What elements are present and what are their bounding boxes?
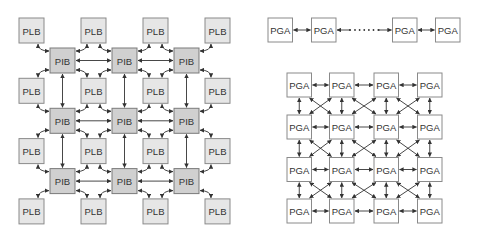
pga-mesh-block: PGA xyxy=(330,115,355,139)
pga-chain: PGAPGAPGAPGA xyxy=(268,18,460,42)
pga-mesh-block-label: PGA xyxy=(289,206,310,217)
pga-mesh-block: PGA xyxy=(418,199,443,223)
pga-mesh-block-label: PGA xyxy=(420,165,441,176)
pga-mesh-block-label: PGA xyxy=(376,122,397,133)
plb-pib-link xyxy=(200,165,211,172)
pga-mesh-block-label: PGA xyxy=(289,80,310,91)
plb-pib-link xyxy=(162,191,173,198)
architecture-diagram: PLBPLBPLBPLBPLBPLBPLBPLBPLBPLBPLBPLBPLBP… xyxy=(0,0,477,237)
plb-pib-link xyxy=(76,44,87,51)
island-architecture: PLBPLBPLBPLBPLBPLBPLBPLBPLBPLBPLBPLBPLBP… xyxy=(19,18,230,224)
pib-block: PIB xyxy=(50,108,75,133)
plb-pib-link xyxy=(138,70,149,77)
plb-pib-link xyxy=(76,130,87,137)
pga-chain-block-label: PGA xyxy=(438,25,459,36)
plb-pib-link xyxy=(162,104,173,111)
plb-pib-link xyxy=(200,104,211,111)
ellipsis-dot xyxy=(377,29,379,31)
plb-pib-link xyxy=(100,191,111,198)
pga-mesh-block: PGA xyxy=(330,73,355,97)
pib-block: PIB xyxy=(112,108,137,133)
pga-mesh-block-label: PGA xyxy=(332,122,353,133)
plb-block-label: PLB xyxy=(23,146,41,157)
plb-block: PLB xyxy=(143,199,168,224)
plb-pib-link xyxy=(138,165,149,172)
pga-mesh-block-label: PGA xyxy=(376,165,397,176)
pga-mesh-block: PGA xyxy=(287,199,312,223)
plb-block-label: PLB xyxy=(147,206,165,217)
plb-pib-link xyxy=(76,70,87,77)
pga-mesh-block: PGA xyxy=(330,199,355,223)
pib-block: PIB xyxy=(50,48,75,73)
pga-mesh-block: PGA xyxy=(330,158,355,182)
plb-block: PLB xyxy=(143,139,168,164)
plb-pib-link xyxy=(38,191,49,198)
pib-block-label: PIB xyxy=(179,176,194,187)
plb-pib-link xyxy=(100,70,111,77)
plb-block: PLB xyxy=(205,199,230,224)
plb-block-label: PLB xyxy=(209,146,227,157)
plb-block-label: PLB xyxy=(147,26,165,37)
ellipsis-dot xyxy=(349,29,351,31)
plb-block-label: PLB xyxy=(23,86,41,97)
plb-pib-link xyxy=(200,130,211,137)
plb-pib-link xyxy=(162,44,173,51)
plb-block: PLB xyxy=(205,139,230,164)
pga-mesh-block-label: PGA xyxy=(332,165,353,176)
pib-block-label: PIB xyxy=(55,56,70,67)
pib-block: PIB xyxy=(174,48,199,73)
pga-mesh-block: PGA xyxy=(374,115,399,139)
pga-chain-block: PGA xyxy=(268,18,293,42)
plb-pib-link xyxy=(162,70,173,77)
pga-mesh-block: PGA xyxy=(287,73,312,97)
plb-pib-link xyxy=(100,130,111,137)
pib-block: PIB xyxy=(174,169,199,194)
plb-block-label: PLB xyxy=(85,146,103,157)
pga-mesh-block: PGA xyxy=(374,199,399,223)
pga-chain-block-label: PGA xyxy=(395,25,416,36)
plb-block: PLB xyxy=(81,18,106,43)
plb-block-label: PLB xyxy=(147,86,165,97)
pib-block-label: PIB xyxy=(179,116,194,127)
plb-pib-link xyxy=(138,44,149,51)
pga-mesh: PGAPGAPGAPGAPGAPGAPGAPGAPGAPGAPGAPGAPGAP… xyxy=(287,73,442,223)
pga-mesh-block-label: PGA xyxy=(289,122,310,133)
pga-mesh-block: PGA xyxy=(374,73,399,97)
plb-pib-link xyxy=(100,104,111,111)
pib-block: PIB xyxy=(112,169,137,194)
plb-pib-link xyxy=(38,130,49,137)
plb-block-label: PLB xyxy=(209,26,227,37)
pga-mesh-block: PGA xyxy=(418,115,443,139)
plb-block-label: PLB xyxy=(85,206,103,217)
plb-pib-link xyxy=(138,130,149,137)
pga-mesh-block: PGA xyxy=(287,158,312,182)
plb-pib-link xyxy=(138,191,149,198)
pga-mesh-block-label: PGA xyxy=(420,206,441,217)
plb-pib-link xyxy=(200,191,211,198)
pib-block-label: PIB xyxy=(117,116,132,127)
plb-pib-link xyxy=(100,44,111,51)
pga-chain-block-label: PGA xyxy=(270,25,291,36)
plb-block-label: PLB xyxy=(23,26,41,37)
pga-chain-block: PGA xyxy=(312,18,337,42)
pga-chain-block-label: PGA xyxy=(314,25,335,36)
pib-block: PIB xyxy=(112,48,137,73)
ellipsis-dot xyxy=(368,29,370,31)
plb-block: PLB xyxy=(81,78,106,103)
pga-mesh-block-label: PGA xyxy=(289,165,310,176)
plb-block: PLB xyxy=(19,78,44,103)
pib-block-label: PIB xyxy=(55,176,70,187)
pib-block: PIB xyxy=(50,169,75,194)
plb-block: PLB xyxy=(205,78,230,103)
ellipsis-dot xyxy=(363,29,365,31)
pga-mesh-block: PGA xyxy=(374,158,399,182)
plb-pib-link xyxy=(76,165,87,172)
plb-block-label: PLB xyxy=(209,206,227,217)
pga-mesh-block: PGA xyxy=(287,115,312,139)
pga-mesh-block-label: PGA xyxy=(332,80,353,91)
ellipsis-dot xyxy=(354,29,356,31)
pga-mesh-block-label: PGA xyxy=(420,80,441,91)
plb-pib-link xyxy=(76,104,87,111)
plb-pib-link xyxy=(162,165,173,172)
plb-pib-link xyxy=(100,165,111,172)
